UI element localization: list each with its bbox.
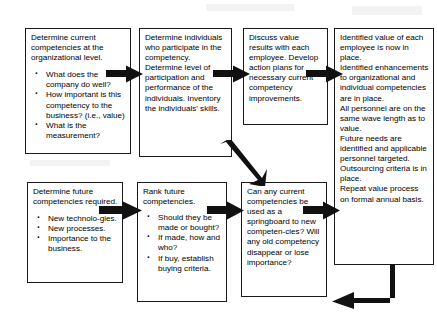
box-determine-individuals: Determine individuals who participate in… (139, 28, 232, 157)
scan-artifact (30, 160, 110, 166)
arrow-box1-to-box2-icon (106, 65, 144, 83)
arrow-box4-return-loop-icon (330, 264, 402, 310)
arrow-box5-to-box6-icon (99, 201, 143, 220)
arrow-box2-to-box3-icon (213, 65, 251, 83)
arrow-box6-to-box7-icon (207, 201, 245, 220)
box1-heading: Determine current competencies at the or… (31, 33, 126, 63)
box6-bullet-list: Should they be made or bought? If made, … (143, 213, 222, 274)
list-item: If made, how and who? (143, 233, 222, 253)
box4-paragraph: Outsourcing criteria is in place. (340, 164, 429, 184)
list-item: New processes. (33, 224, 118, 234)
scan-artifact (352, 6, 422, 15)
box7-heading: Can any current competencies be used as … (247, 187, 322, 268)
box4-paragraph: Identified enhancements to organizationa… (340, 63, 429, 103)
list-item: Importance to the business. (33, 234, 118, 254)
arrow-box3-to-box4-icon (306, 65, 344, 83)
box4-paragraph: Identified value of each employee is now… (340, 33, 429, 63)
box-determine-future-competencies: Determine future competencies required. … (27, 182, 123, 283)
box4-paragraph: All personnel are on the same wave lengt… (340, 104, 429, 134)
box-determine-current-competencies: Determine current competencies at the or… (25, 28, 131, 154)
list-item: What is the measurement? (31, 121, 126, 141)
list-item: How important is this competency to the … (31, 90, 126, 120)
arrow-box2-to-box7-icon (218, 140, 268, 186)
box-springboard-question: Can any current competencies be used as … (241, 182, 327, 297)
box-rank-future-competencies: Rank future competencies. Should they be… (137, 182, 227, 302)
flowchart-canvas: Determine current competencies at the or… (0, 0, 437, 319)
box5-bullet-list: New technolo-gies. New processes. Import… (33, 214, 118, 254)
list-item: If buy, establish buying criteria. (143, 254, 222, 274)
scan-artifact (206, 4, 294, 11)
box4-paragraph: Repeat value process on formal annual ba… (340, 184, 429, 204)
arrow-box7-to-box4-icon (303, 201, 341, 220)
box4-paragraph: Future needs are identified and applicab… (340, 134, 429, 164)
box-identified-value-outcomes: Identified value of each employee is now… (334, 28, 434, 265)
